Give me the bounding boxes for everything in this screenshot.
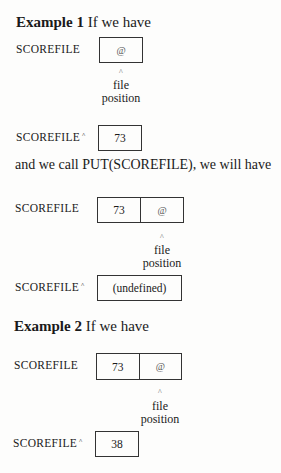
file-cell-eof-marker: @ [139, 354, 182, 379]
example-1-heading-text: If we have [88, 14, 151, 30]
example-1-buffer-box: 73 [98, 125, 142, 151]
file-position-label: file position [137, 244, 187, 270]
file-position-caret: ^ [140, 388, 180, 397]
result-1-buffer-box: (undefined) [97, 275, 182, 301]
result-1-file-box: 73 @ [97, 197, 184, 223]
example-1-heading-bold: Example 1 [16, 14, 84, 30]
example-2-buffer-label: SCOREFILE^ [13, 437, 83, 449]
example-2-heading: Example 2 If we have [14, 318, 149, 335]
file-cell-eof-marker: @ [100, 38, 142, 62]
file-cell-eof-marker: @ [140, 198, 183, 222]
buffer-value: 73 [99, 126, 141, 150]
example-2-buffer-box: 38 [95, 431, 139, 457]
file-cell-value: 73 [98, 198, 140, 222]
file-position-label: file position [96, 79, 146, 105]
buffer-value: 38 [96, 432, 138, 456]
example-1-file-label: SCOREFILE [16, 43, 80, 55]
transition-text: and we call PUT(SCOREFILE), we will have [15, 157, 271, 173]
result-1-buffer-label: SCOREFILE^ [15, 281, 85, 293]
example-1-buffer-label: SCOREFILE^ [16, 131, 86, 143]
example-2-heading-text: If we have [86, 318, 149, 334]
buffer-value: (undefined) [98, 276, 181, 300]
example-2-heading-bold: Example 2 [14, 318, 82, 334]
example-2-file-label: SCOREFILE [14, 359, 78, 371]
example-1-heading: Example 1 If we have [16, 14, 151, 31]
result-1-file-label: SCOREFILE [15, 202, 79, 214]
example-2-file-box: 73 @ [96, 353, 182, 380]
file-position-caret: ^ [101, 68, 141, 77]
file-position-label: file position [135, 400, 185, 426]
example-1-file-box: @ [99, 37, 143, 63]
file-position-caret: ^ [142, 233, 182, 242]
file-cell-value: 73 [97, 354, 139, 379]
